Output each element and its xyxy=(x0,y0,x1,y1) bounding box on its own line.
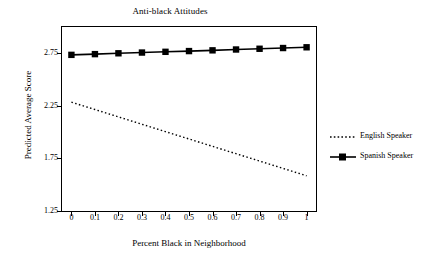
y-axis-ticks: 1.251.752.252.75 xyxy=(28,26,58,212)
x-tick-mark xyxy=(165,212,166,216)
y-tick-mark xyxy=(57,106,61,107)
x-tick-mark xyxy=(71,212,72,216)
y-tick-label: 1.75 xyxy=(32,154,58,162)
chart-legend: English Speaker Spanish Speaker xyxy=(330,128,428,168)
data-point-marker xyxy=(233,46,239,52)
x-tick-mark xyxy=(118,212,119,216)
series-line xyxy=(71,102,306,176)
data-point-marker xyxy=(280,45,286,51)
series-lines xyxy=(62,27,316,211)
x-tick-mark xyxy=(307,212,308,216)
y-tick-mark xyxy=(57,158,61,159)
dotted-line-icon xyxy=(330,132,356,142)
data-point-marker xyxy=(115,50,121,56)
data-point-marker xyxy=(303,44,309,50)
y-tick-mark xyxy=(57,211,61,212)
x-tick-mark xyxy=(189,212,190,216)
data-point-marker xyxy=(139,49,145,55)
data-point-marker xyxy=(186,48,192,54)
data-point-marker xyxy=(68,52,74,58)
y-tick-mark xyxy=(57,53,61,54)
legend-label-english: English Speaker xyxy=(360,131,412,140)
y-tick-label: 2.75 xyxy=(32,49,58,57)
x-axis-ticks: 00.10.20.30.40.50.60.70.80.91 xyxy=(61,214,317,228)
data-point-marker xyxy=(256,46,262,52)
solid-line-square-marker-icon xyxy=(330,152,356,162)
data-point-marker xyxy=(162,49,168,55)
y-tick-label: 1.25 xyxy=(32,207,58,215)
chart-container: Anti-black Attitudes Predicted Average S… xyxy=(0,0,429,267)
data-point-marker xyxy=(209,47,215,53)
legend-item-spanish: Spanish Speaker xyxy=(330,148,428,168)
x-tick-mark xyxy=(260,212,261,216)
y-tick-label: 2.25 xyxy=(32,102,58,110)
x-axis-label: Percent Black in Neighborhood xyxy=(61,238,317,248)
chart-title: Anti-black Attitudes xyxy=(0,6,340,16)
legend-label-spanish: Spanish Speaker xyxy=(360,151,413,160)
x-tick-mark xyxy=(283,212,284,216)
x-tick-mark xyxy=(142,212,143,216)
legend-item-english: English Speaker xyxy=(330,128,428,148)
x-tick-mark xyxy=(95,212,96,216)
x-tick-mark xyxy=(236,212,237,216)
data-point-marker xyxy=(92,51,98,57)
x-tick-mark xyxy=(213,212,214,216)
plot-area xyxy=(62,27,316,211)
